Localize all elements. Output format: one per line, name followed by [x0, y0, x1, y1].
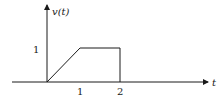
x-tick-label-2: 2: [117, 86, 123, 97]
waveform-diagram: v(t) 1 1 2 t: [0, 0, 223, 102]
waveform-trace: [47, 48, 120, 82]
x-axis-label: t: [212, 77, 217, 88]
y-tick-label-1: 1: [33, 44, 39, 55]
y-axis-label: v(t): [52, 6, 70, 17]
x-tick-label-1: 1: [77, 86, 83, 97]
